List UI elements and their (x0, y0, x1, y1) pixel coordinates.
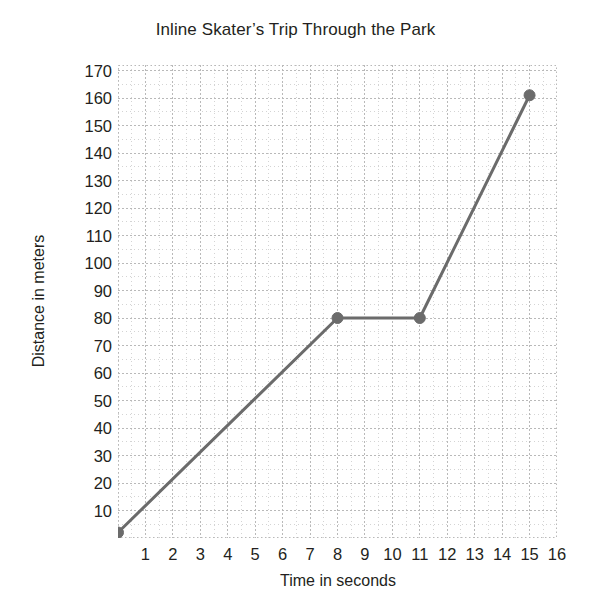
y-tick-label: 130 (66, 173, 112, 189)
chart-figure: Inline Skater’s Trip Through the Park Di… (0, 0, 591, 613)
y-tick-label: 170 (66, 63, 112, 79)
y-tick-label: 150 (66, 118, 112, 134)
y-tick-label: 140 (66, 145, 112, 161)
x-axis-tick-labels: 12345678910111213141516 (118, 546, 588, 570)
y-tick-label: 80 (66, 310, 112, 326)
plot-area (118, 65, 557, 538)
y-tick-label: 30 (66, 448, 112, 464)
y-tick-label: 100 (66, 255, 112, 271)
y-tick-label: 120 (66, 200, 112, 216)
y-tick-label: 50 (66, 393, 112, 409)
y-axis-tick-labels: 1020304050607080901001101201301401501601… (62, 0, 112, 613)
y-tick-label: 70 (66, 338, 112, 354)
y-tick-label: 110 (66, 228, 112, 244)
y-tick-label: 40 (66, 420, 112, 436)
y-tick-label: 160 (66, 90, 112, 106)
y-tick-label: 60 (66, 365, 112, 381)
y-tick-label: 20 (66, 475, 112, 491)
y-tick-label: 10 (66, 503, 112, 519)
y-axis-label: Distance in meters (30, 201, 48, 401)
y-tick-label: 90 (66, 283, 112, 299)
x-tick-label: 16 (537, 546, 577, 562)
x-axis-label: Time in seconds (118, 572, 558, 590)
